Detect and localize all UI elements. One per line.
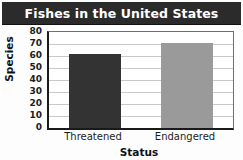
y-tick-label: 40 [29, 75, 42, 84]
y-tick-label: 60 [29, 51, 42, 60]
chart-title-banner: Fishes in the United States [2, 2, 241, 25]
x-tick-label: Endangered [139, 131, 231, 142]
y-tick-label: 70 [29, 39, 42, 48]
y-tick-label: 20 [29, 99, 42, 108]
chart-title: Fishes in the United States [25, 6, 219, 21]
y-axis-tick-labels: 80706050403020100 [0, 31, 45, 127]
bar-endangered [161, 43, 213, 128]
x-axis-title: Status [47, 146, 231, 158]
plot-area [47, 31, 234, 130]
bar-threatened [69, 54, 121, 128]
y-tick-label: 10 [29, 111, 42, 120]
y-tick-label: 0 [36, 123, 42, 132]
chart-figure: Fishes in the United States Species 8070… [0, 0, 243, 160]
x-tick-label: Threatened [47, 131, 139, 142]
y-tick-label: 50 [29, 63, 42, 72]
y-tick-label: 30 [29, 87, 42, 96]
bar-series [49, 32, 233, 128]
y-tick-label: 80 [29, 27, 42, 36]
